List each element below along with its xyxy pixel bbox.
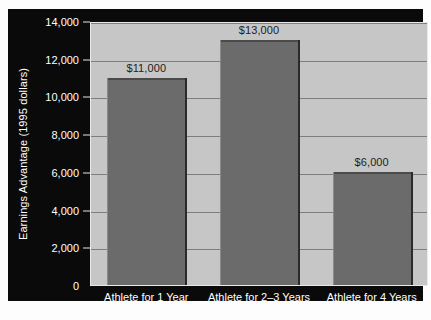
bar-top-edge bbox=[108, 78, 185, 80]
y-axis-tick-label: 12,000 bbox=[15, 54, 79, 66]
y-axis-tick-label: 8,000 bbox=[15, 129, 79, 141]
y-axis-tick-mark bbox=[83, 22, 90, 23]
y-axis-tick-mark bbox=[83, 135, 90, 136]
chart-panel: Earnings Advantage (1995 dollars) 02,000… bbox=[8, 9, 423, 301]
y-axis-tick-label: 0 bbox=[15, 280, 79, 292]
y-axis-tick-mark bbox=[83, 59, 90, 60]
x-axis-category-label: Athlete for 1 Year bbox=[86, 291, 206, 303]
y-axis-tick-label: 2,000 bbox=[15, 242, 79, 254]
y-axis-tick-label: 10,000 bbox=[15, 91, 79, 103]
x-axis-category-label: Athlete for 2–3 Years bbox=[199, 291, 319, 303]
chart-figure: Earnings Advantage (1995 dollars) 02,000… bbox=[0, 0, 431, 320]
y-axis-tick-label: 14,000 bbox=[15, 16, 79, 28]
y-axis-tick-mark bbox=[83, 248, 90, 249]
bar bbox=[107, 78, 187, 285]
bar bbox=[220, 40, 300, 285]
y-axis-tick-mark bbox=[83, 97, 90, 98]
y-axis-tick-label: 4,000 bbox=[15, 205, 79, 217]
y-axis-tick-label: 6,000 bbox=[15, 167, 79, 179]
bar-value-label: $13,000 bbox=[209, 24, 309, 36]
bar-value-label: $6,000 bbox=[322, 156, 422, 168]
y-axis-tick-mark bbox=[83, 172, 90, 173]
bar-value-label: $11,000 bbox=[96, 62, 196, 74]
bar-top-edge bbox=[221, 40, 298, 42]
bar-top-edge bbox=[334, 172, 411, 174]
x-axis-category-label: Athlete for 4 Years bbox=[312, 291, 431, 303]
bar bbox=[333, 172, 413, 285]
y-axis-tick-mark bbox=[83, 210, 90, 211]
